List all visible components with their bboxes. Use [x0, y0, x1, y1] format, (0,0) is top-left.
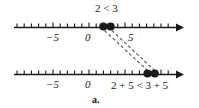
bottom-axis-arrow-icon: [176, 71, 184, 79]
connector-2-to-7: [105, 31, 148, 71]
bottom-tick-label-minus-5: −5: [46, 79, 59, 90]
top-tick-label-5: 5: [128, 32, 134, 43]
top-point-2: [99, 22, 107, 30]
bottom-inequality-label: 2 + 5 < 3 + 5: [111, 80, 168, 91]
top-tick-label-minus-5: −5: [46, 32, 59, 43]
bottom-number-line: [14, 69, 184, 78]
panel-label: a.: [92, 95, 100, 105]
bottom-point-8: [151, 69, 159, 77]
top-number-line: [14, 22, 184, 31]
bottom-point-7: [143, 69, 151, 77]
top-axis-ticks: [17, 23, 168, 28]
figure-canvas: [0, 0, 199, 108]
number-line-figure: 2 < 3 −5 0 5 −5 0 2 + 5 < 3 + 5 a.: [0, 0, 199, 108]
top-axis-arrow-icon: [176, 24, 184, 32]
top-inequality-label: 2 < 3: [95, 3, 118, 14]
bottom-tick-label-0: 0: [85, 79, 91, 90]
top-tick-label-0: 0: [85, 32, 91, 43]
top-point-3: [107, 22, 115, 30]
